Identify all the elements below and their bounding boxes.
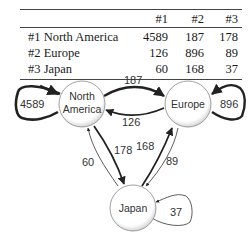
edge-label-eu-jp: 89 [166, 155, 178, 167]
node-japan: Japan [110, 185, 156, 231]
edge-label-eu-eu: 896 [220, 98, 238, 110]
svg-text:Japan: Japan [119, 202, 148, 214]
edge-na-eu [104, 87, 164, 96]
edge-label-na-eu: 187 [124, 74, 142, 86]
svg-text:America: America [63, 103, 102, 115]
edge-label-eu-na: 126 [122, 116, 140, 128]
edge-label-na-jp: 178 [114, 144, 132, 156]
node-europe: Europe [165, 81, 211, 127]
svg-text:North: North [69, 90, 95, 102]
edge-label-na-na: 4589 [20, 98, 44, 110]
edge-label-jp-eu: 168 [136, 140, 154, 152]
svg-text:Europe: Europe [171, 98, 205, 110]
edge-label-jp-jp: 37 [170, 206, 182, 218]
transition-graph: 4589 187 126 896 178 60 168 89 37 North … [0, 0, 252, 246]
edge-eu-na [106, 108, 164, 115]
edge-label-jp-na: 60 [82, 156, 94, 168]
node-north-america: North America [59, 81, 105, 127]
